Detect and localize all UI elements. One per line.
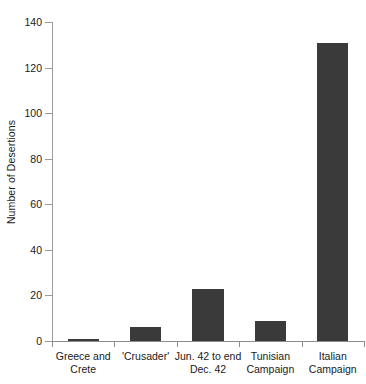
x-axis-line: [52, 341, 365, 342]
y-tick-label: 40: [0, 244, 42, 256]
y-tick-label: 0: [0, 335, 42, 347]
bar: [130, 327, 161, 341]
x-label-line-1: Italian: [319, 350, 347, 362]
x-tick-mark: [52, 341, 53, 347]
x-axis-category-label: ItalianCampaign: [298, 350, 366, 375]
x-tick-mark: [364, 341, 365, 347]
y-tick-label: 20: [0, 289, 42, 301]
x-axis-category-label: Greece andCrete: [48, 350, 118, 375]
y-tick-label: 140: [0, 16, 42, 28]
x-tick-mark: [114, 341, 115, 347]
y-tick-label: 120: [0, 62, 42, 74]
bar-chart: Number of Desertions 020406080100120140 …: [0, 0, 366, 384]
x-axis-category-label: Jun. 42 to endDec. 42: [173, 350, 243, 375]
y-tick-label: 80: [0, 153, 42, 165]
x-label-line-1: Greece and: [56, 350, 111, 362]
x-label-line-2: Campaign: [298, 363, 366, 376]
x-axis-category-label: TunisianCampaign: [235, 350, 305, 375]
x-tick-mark: [302, 341, 303, 347]
x-label-line-2: Campaign: [235, 363, 305, 376]
x-label-line-2: Crete: [48, 363, 118, 376]
x-axis-category-label: 'Crusader': [110, 350, 180, 363]
y-tick-label: 60: [0, 198, 42, 210]
bar: [192, 289, 223, 341]
x-label-line-1: Tunisian: [251, 350, 290, 362]
bar: [317, 43, 348, 341]
plot-area: [52, 22, 364, 341]
x-tick-mark: [239, 341, 240, 347]
x-label-line-1: Jun. 42 to end: [175, 350, 242, 362]
x-label-line-1: 'Crusader': [122, 350, 169, 362]
x-label-line-2: Dec. 42: [173, 363, 243, 376]
y-tick-label: 100: [0, 107, 42, 119]
bar: [255, 321, 286, 342]
bar: [68, 339, 99, 341]
x-tick-mark: [177, 341, 178, 347]
